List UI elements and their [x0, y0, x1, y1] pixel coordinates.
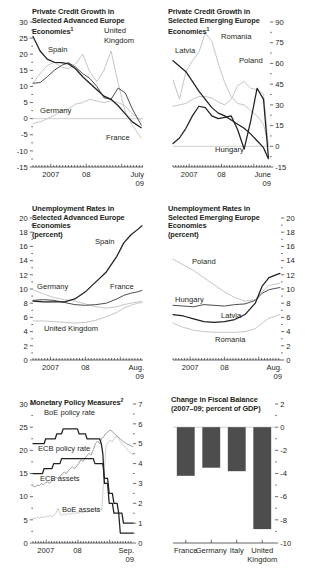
title-line-2: Selected Emerging Europe: [168, 16, 260, 25]
bar-italy: [228, 427, 246, 471]
title-line-3: Economies: [32, 28, 71, 37]
y-tick-label-left: 30: [19, 400, 27, 409]
x-tick-label: 08: [73, 546, 81, 555]
y-tick-label: 2: [24, 342, 28, 351]
series-label-hungary: Hungary: [215, 145, 244, 154]
series-label-romania: Romania: [215, 335, 246, 344]
y-tick-label-right: 2: [138, 499, 142, 508]
bar-germany: [202, 427, 220, 468]
panel-unemployment-emerging: Unemployment Rates in Selected Emerging …: [159, 196, 318, 388]
title-line-2: Selected Advanced Europe: [32, 16, 125, 25]
title-line-3: Economies: [168, 28, 207, 37]
y-tick-label: -4: [280, 469, 287, 478]
y-tick-label: 8: [286, 299, 290, 308]
y-tick-label: -6: [280, 492, 287, 501]
y-tick-label: 45: [275, 80, 283, 89]
panel-private-credit-advanced: Private Credit Growth in Selected Advanc…: [0, 0, 159, 196]
series-label-boe-policy-rate: BoE policy rate: [44, 408, 95, 417]
y-tick-label: 10: [19, 285, 27, 294]
x-tick-label: 08: [220, 363, 228, 372]
series-label-ecb-assets: ECB assets: [40, 474, 80, 483]
x-tick-label-last-year: 09: [263, 179, 271, 188]
panel-unemployment-advanced: Unemployment Rates in Selected Advanced …: [0, 196, 159, 388]
y-tick-label: 75: [275, 38, 283, 47]
title-footnote-marker: 2: [120, 397, 123, 403]
y-tick-label: 0: [275, 142, 279, 151]
x-tick-label: 2007: [37, 546, 54, 555]
y-tick-label: 14: [286, 256, 294, 265]
y-tick-label: 0: [280, 423, 284, 432]
x-tick-label-last-year: 09: [126, 555, 134, 564]
x-tick-label-france: France: [174, 546, 198, 555]
title-line-1: Monetary Policy Measures: [30, 398, 120, 407]
y-tick-label: 5: [24, 98, 28, 107]
bar-united-kingdom: [253, 427, 271, 529]
y-tick-label: 16: [286, 242, 294, 251]
y-tick-label-left: 20: [19, 446, 27, 455]
panel-monetary-policy: Monetary Policy Measures2 30252015105076…: [0, 388, 159, 579]
panel-title: Change in Fiscal Balance (2007–09; perce…: [171, 396, 303, 413]
series-line-france: [33, 63, 141, 126]
y-tick-label: -10: [17, 147, 28, 156]
x-tick-label: 2007: [42, 363, 59, 372]
x-tick-label-italy: Italy: [230, 546, 244, 555]
y-tick-label: 10: [286, 285, 294, 294]
x-tick-label: 2007: [182, 363, 199, 372]
x-tick-label-last: Aug.: [266, 363, 282, 372]
y-tick-label-right: 3: [138, 479, 142, 488]
y-tick-label: 10: [19, 82, 27, 91]
x-tick-label-last: Aug.: [128, 363, 144, 372]
y-tick-label: 4: [286, 327, 290, 336]
x-tick-label: 08: [82, 170, 90, 179]
y-tick-label-left: 10: [19, 492, 27, 501]
series-label-germany: Germany: [40, 106, 71, 115]
chart-fiscal-balance: 20-2-4-6-8-10FranceGermanyItalyUnitedKin…: [159, 388, 318, 579]
title-footnote-marker: 1: [207, 26, 210, 32]
series-line-latvia: [173, 61, 268, 159]
y-tick-label: 0: [24, 114, 28, 123]
title-line-4: (percent): [32, 230, 63, 239]
x-tick-label-last-year: 09: [136, 179, 144, 188]
y-tick-label: -15: [275, 163, 286, 172]
y-tick-label: 20: [19, 50, 27, 59]
y-tick-label: 2: [286, 342, 290, 351]
panel-title: Private Credit Growth in Selected Advanc…: [32, 8, 156, 37]
series-label-uk2: Kingdom: [104, 36, 134, 45]
x-tick-label-last: July: [130, 170, 144, 179]
y-tick-label: 60: [275, 59, 283, 68]
x-tick-label-last-year: 09: [136, 372, 144, 381]
y-tick-label: 30: [19, 18, 27, 27]
y-tick-label: 0: [24, 356, 28, 365]
title-line-2: (2007–09; percent of GDP): [171, 404, 261, 413]
y-tick-label: 25: [19, 34, 27, 43]
y-tick-label-right: 1: [138, 519, 142, 528]
series-label-france: France: [110, 282, 134, 291]
x-tick-label: 2007: [181, 170, 198, 179]
chart-monetary-policy: 30252015105076543210200708Sep.09BoE poli…: [0, 388, 159, 579]
x-tick-label: 08: [217, 170, 225, 179]
x-tick-label-last: Sep.: [118, 546, 134, 555]
y-tick-label-left: 0: [24, 539, 28, 548]
series-label-latvia: Latvia: [175, 46, 196, 55]
y-tick-label: 20: [19, 214, 27, 223]
y-tick-label: -8: [280, 516, 287, 525]
x-tick-label-last: June: [255, 170, 271, 179]
panel-title: Monetary Policy Measures2: [30, 396, 158, 408]
series-label-hungary: Hungary: [175, 295, 204, 304]
series-label-germany: Germany: [37, 282, 68, 291]
y-tick-label: 12: [286, 271, 294, 280]
bar-france: [177, 427, 195, 476]
y-tick-label: -2: [280, 446, 287, 455]
panel-fiscal-balance: Change in Fiscal Balance (2007–09; perce…: [159, 388, 318, 579]
y-tick-label: 8: [24, 299, 28, 308]
x-tick-label-last-year: 09: [274, 372, 282, 381]
y-tick-label-left: 25: [19, 423, 27, 432]
x-tick-label-uk2: Kingdom: [247, 555, 277, 564]
series-label-france: France: [106, 133, 130, 142]
y-tick-label-right: 0: [138, 539, 142, 548]
series-label-poland: Poland: [192, 257, 216, 266]
panel-title: Unemployment Rates in Selected Advanced …: [32, 205, 156, 239]
y-tick-label: 0: [286, 356, 290, 365]
y-tick-label: 14: [19, 256, 27, 265]
y-tick-label: 15: [275, 121, 283, 130]
